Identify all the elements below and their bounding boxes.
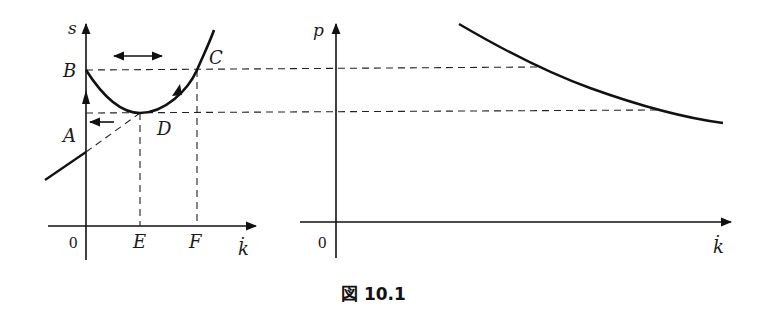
label-B: B	[62, 60, 76, 81]
label-E: E	[132, 231, 146, 252]
dashed-guides	[86, 67, 659, 226]
left-origin-label: 0	[69, 233, 78, 252]
p-curve	[459, 24, 723, 123]
label-F: F	[188, 231, 203, 252]
right-origin-label: 0	[318, 233, 327, 252]
right-panel: p 0 k̇	[300, 20, 731, 258]
left-k-axis-label: k̇	[238, 236, 249, 259]
s-curve	[86, 30, 214, 113]
s-axis-label: s	[68, 18, 77, 38]
curve-direction-arrow-icon	[172, 84, 182, 96]
right-k-axis-label: k̇	[713, 234, 724, 257]
label-C: C	[209, 47, 223, 68]
up-arrow-icon	[82, 90, 90, 104]
left-panel: s B A C D 0 E F k̇	[45, 18, 659, 260]
figure-10-1: s B A C D 0 E F k̇ p 0 k̇ 図 10.1	[0, 0, 760, 314]
label-D: D	[156, 118, 172, 139]
p-axis-label: p	[313, 20, 324, 40]
figure-caption: 図 10.1	[341, 284, 406, 304]
label-A: A	[61, 125, 76, 146]
tangent-line-solid	[45, 152, 86, 180]
